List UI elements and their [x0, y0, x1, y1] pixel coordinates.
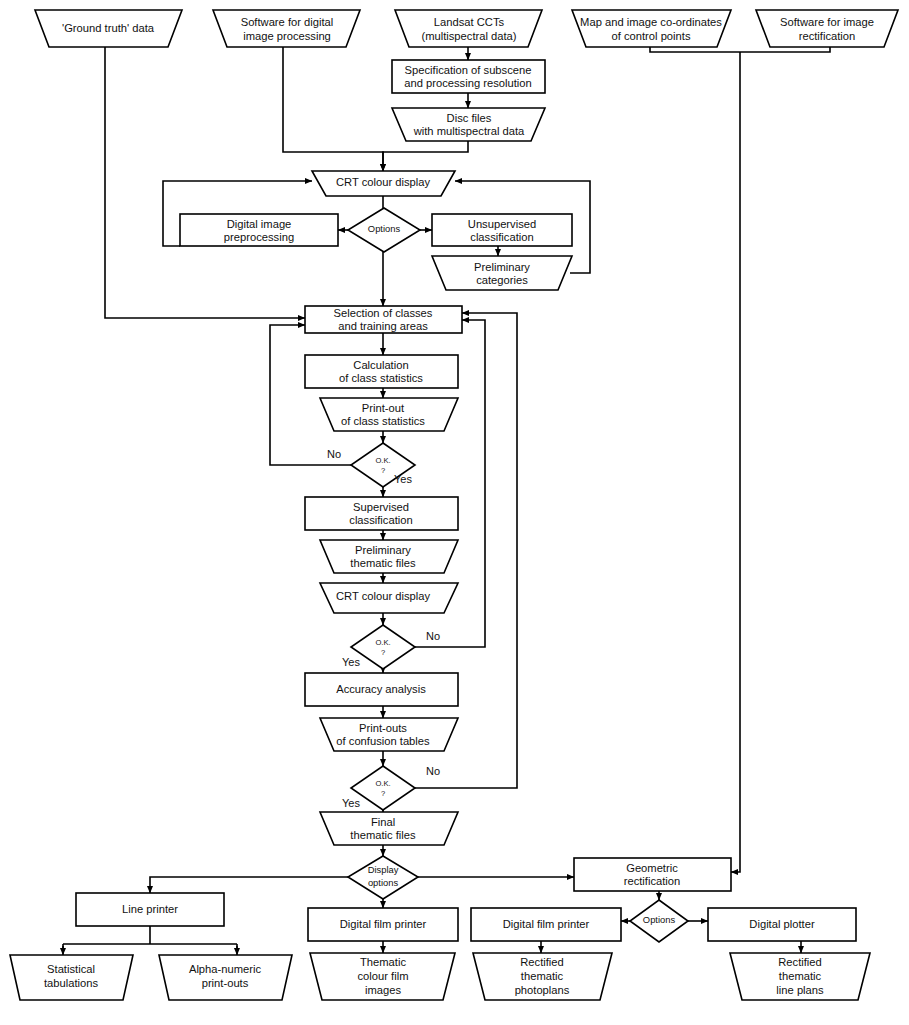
crt-top-label: CRT colour display: [336, 176, 431, 188]
node-spec-subscene[interactable]: Specification of subscene and processing…: [392, 60, 545, 93]
node-statistical-tab[interactable]: Statistical tabulations: [10, 955, 133, 1000]
node-options-bottom[interactable]: Options: [630, 900, 688, 942]
ok1-label-2: ?: [381, 466, 385, 475]
disc-files-label-2: with multispectral data: [413, 125, 525, 137]
geometric-rect-label-1: Geometric: [626, 862, 678, 874]
conn-displayoptions-lineprinter: [150, 877, 348, 893]
flowchart-canvas: 'Ground truth' data Software for digital…: [0, 0, 909, 1025]
node-final-thematic[interactable]: Final thematic files: [320, 812, 458, 845]
supervised-label-1: Supervised: [353, 501, 409, 513]
options-bottom-label: Options: [643, 914, 676, 925]
prelim-thematic-label-1: Preliminary: [355, 544, 411, 556]
alpha-numeric-label-1: Alpha-numeric: [189, 963, 262, 975]
prelim-thematic-label-2: thematic files: [350, 557, 416, 569]
film-printer-1-label: Digital film printer: [340, 918, 427, 930]
prelim-categories-label-2: categories: [476, 274, 528, 286]
software-dip-label-1: Software for digital: [241, 16, 334, 28]
ground-truth-label: 'Ground truth' data: [62, 22, 155, 34]
display-options-label-1: Display: [368, 864, 399, 875]
rect-photoplans-label-1: Rectified: [520, 956, 564, 968]
software-rect-label-2: rectification: [799, 30, 856, 42]
node-unsupervised[interactable]: Unsupervised classification: [432, 214, 572, 246]
display-options-label-2: options: [368, 877, 399, 888]
node-printout-stats[interactable]: Print-out of class statistics: [320, 398, 458, 431]
node-landsat[interactable]: Landsat CCTs (multispectral data): [395, 10, 542, 47]
landsat-label-2: (multispectral data): [421, 30, 516, 42]
ok1-no-label: No: [327, 448, 341, 460]
node-crt-top[interactable]: CRT colour display: [312, 171, 455, 196]
landsat-label-1: Landsat CCTs: [434, 16, 505, 28]
ok3-no-label: No: [426, 765, 440, 777]
digital-plotter-label: Digital plotter: [749, 918, 815, 930]
ok3-label-2: ?: [381, 789, 385, 798]
geometric-rect-label-2: rectification: [624, 875, 681, 887]
ok2-label-2: ?: [381, 648, 385, 657]
node-digital-plotter[interactable]: Digital plotter: [708, 908, 856, 941]
preprocessing-label-2: preprocessing: [224, 231, 294, 243]
node-thematic-film[interactable]: Thematic colour film images: [310, 953, 455, 1000]
node-prelim-categories[interactable]: Preliminary categories: [432, 256, 572, 290]
calculation-label-1: Calculation: [353, 359, 408, 371]
node-options-top[interactable]: Options: [348, 208, 420, 252]
statistical-tab-label-2: tabulations: [44, 977, 99, 989]
calculation-label-2: of class statistics: [339, 372, 423, 384]
node-rect-photoplans[interactable]: Rectified thematic photoplans: [473, 953, 612, 1000]
ok1-yes-label: Yes: [394, 473, 412, 485]
node-calculation[interactable]: Calculation of class statistics: [305, 355, 458, 388]
node-display-options[interactable]: Display options: [348, 856, 418, 899]
thematic-film-label-2: colour film: [358, 970, 409, 982]
conn-merge-geometric: [731, 52, 740, 872]
node-ground-truth[interactable]: 'Ground truth' data: [35, 10, 182, 47]
final-thematic-label-1: Final: [371, 816, 395, 828]
software-dip-label-2: image processing: [243, 30, 331, 42]
map-coords-label-1: Map and image co-ordinates: [580, 16, 722, 28]
conn-disc-crt: [383, 141, 468, 171]
printouts-confusion-label-2: of confusion tables: [336, 735, 430, 747]
rect-lineplans-label-1: Rectified: [778, 956, 822, 968]
node-prelim-thematic[interactable]: Preliminary thematic files: [320, 540, 458, 573]
ok3-yes-label: Yes: [342, 797, 360, 809]
prelim-categories-label-1: Preliminary: [474, 261, 530, 273]
node-disc-files[interactable]: Disc files with multispectral data: [392, 108, 545, 141]
printout-stats-label-1: Print-out: [362, 402, 405, 414]
node-map-coords[interactable]: Map and image co-ordinates of control po…: [572, 10, 731, 47]
rect-photoplans-label-3: photoplans: [515, 984, 570, 996]
node-rect-lineplans[interactable]: Rectified thematic line plans: [730, 953, 870, 1000]
node-supervised[interactable]: Supervised classification: [305, 497, 458, 530]
ok1-label-1: O.K.: [375, 456, 390, 465]
conn-groundtruth-selection: [105, 47, 305, 318]
unsupervised-label-1: Unsupervised: [468, 218, 536, 230]
node-accuracy[interactable]: Accuracy analysis: [305, 673, 458, 706]
ok2-label-1: O.K.: [375, 638, 390, 647]
supervised-label-2: classification: [349, 514, 412, 526]
node-geometric-rect[interactable]: Geometric rectification: [574, 858, 731, 891]
crt-mid-label: CRT colour display: [336, 590, 431, 602]
node-alpha-numeric[interactable]: Alpha-numeric print-outs: [159, 955, 292, 1000]
thematic-film-label-1: Thematic: [360, 956, 406, 968]
node-line-printer[interactable]: Line printer: [76, 893, 224, 926]
node-preprocessing[interactable]: Digital image preprocessing: [180, 214, 338, 246]
node-software-rect[interactable]: Software for image rectification: [756, 10, 898, 47]
conn-ok1-no-selection: [270, 325, 351, 465]
printout-stats-label-2: of class statistics: [341, 415, 425, 427]
printouts-confusion-label-1: Print-outs: [359, 722, 407, 734]
conn-lineprinter-split: [63, 926, 237, 953]
node-printouts-confusion[interactable]: Print-outs of confusion tables: [320, 718, 458, 751]
alpha-numeric-label-2: print-outs: [202, 977, 249, 989]
node-crt-mid[interactable]: CRT colour display: [320, 583, 458, 613]
spec-subscene-label-1: Specification of subscene: [405, 64, 532, 76]
node-selection[interactable]: Selection of classes and training areas: [305, 306, 462, 333]
statistical-tab-label-1: Statistical: [47, 963, 95, 975]
disc-files-label-1: Disc files: [447, 112, 492, 124]
line-printer-label: Line printer: [122, 903, 178, 915]
node-film-printer-1[interactable]: Digital film printer: [308, 908, 458, 941]
options-top-label: Options: [368, 223, 401, 234]
accuracy-label: Accuracy analysis: [336, 683, 426, 695]
node-software-dip[interactable]: Software for digital image processing: [213, 10, 360, 47]
software-rect-label-1: Software for image: [780, 16, 874, 28]
final-thematic-label-2: thematic files: [350, 829, 416, 841]
flowchart-svg: 'Ground truth' data Software for digital…: [0, 0, 909, 1025]
node-film-printer-2[interactable]: Digital film printer: [471, 908, 621, 941]
spec-subscene-label-2: and processing resolution: [404, 77, 532, 89]
selection-label-2: and training areas: [338, 320, 428, 332]
